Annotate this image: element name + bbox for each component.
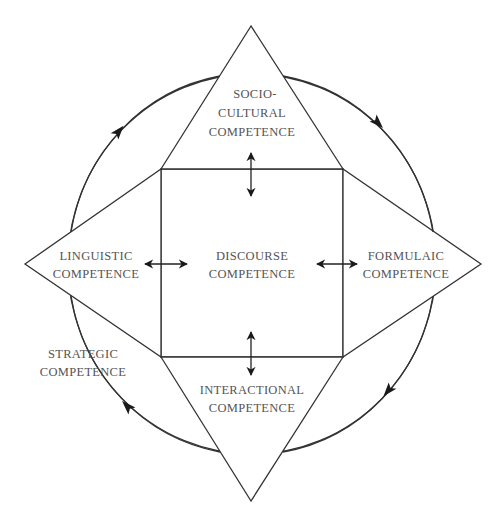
label-line: SOCIO- [233, 87, 276, 101]
competence-model-diagram: SOCIO- CULTURAL COMPETENCE LINGUISTIC CO… [0, 0, 502, 525]
interactional-triangle [161, 357, 343, 501]
linguistic-triangle [25, 169, 161, 357]
label-line: COMPETENCE [40, 365, 126, 379]
label-line: CULTURAL [218, 106, 286, 120]
label-line: STRATEGIC [48, 347, 118, 361]
clockwise-arrow-icon [119, 398, 136, 415]
clockwise-arrow-icon [111, 122, 128, 139]
label-line: COMPETENCE [363, 267, 449, 281]
label-line: COMPETENCE [209, 401, 295, 415]
label-line: INTERACTIONAL [200, 383, 305, 397]
formulaic-triangle [343, 169, 481, 357]
label-line: FORMULAIC [368, 249, 444, 263]
clockwise-arrow-icon [370, 115, 387, 132]
label-line: DISCOURSE [216, 249, 288, 263]
discourse-square [161, 169, 343, 357]
label-line: COMPETENCE [53, 267, 139, 281]
label-line: LINGUISTIC [59, 249, 132, 263]
label-line: COMPETENCE [209, 267, 295, 281]
strategic-label: STRATEGIC COMPETENCE [40, 347, 126, 379]
label-line: COMPETENCE [209, 125, 295, 139]
